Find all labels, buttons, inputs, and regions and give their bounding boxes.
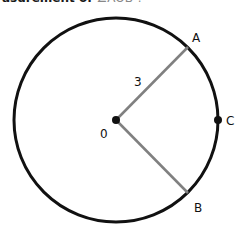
label-A: A [192, 31, 201, 45]
point-C [214, 116, 222, 124]
label-C: C [226, 114, 234, 128]
circle-diagram: A B C 3 0 [0, 0, 246, 237]
segment-OA [116, 47, 188, 120]
label-radius: 3 [134, 75, 142, 89]
center-point [112, 116, 120, 124]
label-center: 0 [100, 127, 108, 141]
segment-OB [116, 120, 188, 193]
label-B: B [194, 201, 202, 215]
